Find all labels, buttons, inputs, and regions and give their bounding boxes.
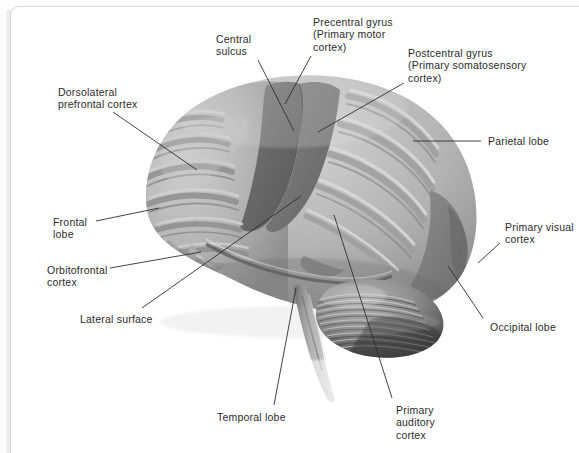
leader-precentral-gyrus <box>285 56 311 104</box>
leader-orbitofrontal-cortex <box>110 252 201 268</box>
leader-temporal-lobe <box>274 288 296 405</box>
leader-primary-auditory-cortex <box>334 215 392 398</box>
leader-dorsolateral-prefrontal-cortex <box>113 112 197 170</box>
leader-primary-visual-cortex <box>478 243 500 263</box>
leader-occipital-lobe <box>448 266 483 318</box>
brain-diagram-figure: Centralsulcus Precentral gyrus(Primary m… <box>0 0 579 453</box>
leader-frontal-lobe <box>96 208 159 221</box>
leader-central-sulcus <box>258 60 294 131</box>
leader-lines <box>0 0 579 453</box>
leader-postcentral-gyrus <box>318 83 404 132</box>
leader-lateral-surface <box>142 196 301 308</box>
